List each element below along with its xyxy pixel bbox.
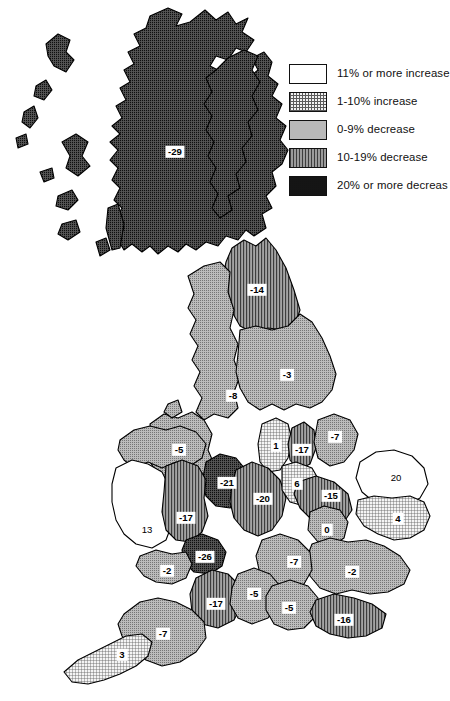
region-value-lincolnshire: -7 xyxy=(328,431,342,443)
region-value-north-east: -14 xyxy=(247,284,266,296)
legend-item[interactable]: 10-19% decrease xyxy=(289,146,450,169)
region-value-greater-mcr: -21 xyxy=(217,477,236,489)
legend-item[interactable]: 11% or more increase xyxy=(289,62,450,85)
region-yorkshire[interactable] xyxy=(236,314,336,410)
region-value-cornwall: 3 xyxy=(117,649,128,661)
legend-item[interactable]: 1-10% increase xyxy=(289,90,450,113)
region-value-powys: 13 xyxy=(142,525,153,535)
region-mid-wales[interactable] xyxy=(162,460,208,542)
region-cornwall[interactable] xyxy=(64,634,152,684)
region-value-west-midlands: -20 xyxy=(253,493,272,505)
region-outer-hebrides-south[interactable] xyxy=(22,106,38,128)
region-value-cumbria: -8 xyxy=(226,390,240,402)
region-value-merseyside: 1 xyxy=(271,440,282,452)
region-value-yorkshire: -3 xyxy=(280,369,294,381)
legend-swatch-white xyxy=(289,64,327,84)
region-value-cambridgeshire: 0 xyxy=(322,524,333,536)
region-value-wiltshire: -5 xyxy=(247,588,261,600)
legend-label: 11% or more increase xyxy=(337,68,450,79)
region-value-leicestershire: -15 xyxy=(321,490,340,502)
legend-swatch-fine-grid xyxy=(289,92,327,112)
map-legend: 11% or more increase1-10% increase0-9% d… xyxy=(289,62,450,202)
region-value-suffolk: 4 xyxy=(393,513,404,525)
region-islay[interactable] xyxy=(58,220,80,240)
legend-label: 1-10% increase xyxy=(337,96,418,107)
legend-item[interactable]: 0-9% decrease xyxy=(289,118,450,141)
region-value-norfolk: 20 xyxy=(391,473,402,483)
region-value-humberside: -17 xyxy=(292,444,311,456)
region-mull[interactable] xyxy=(56,190,78,210)
legend-label: 0-9% decrease xyxy=(337,124,415,135)
legend-label: 10-19% decrease xyxy=(337,152,428,163)
region-value-lancashire: -5 xyxy=(172,444,186,456)
map-figure: -29-14-3-8-5-211-17-7-206-1520413-17-26-… xyxy=(0,0,450,701)
legend-label: 20% or more decreas xyxy=(337,180,448,191)
legend-item[interactable]: 20% or more decreas xyxy=(289,174,450,197)
region-value-essex: -2 xyxy=(345,566,359,578)
region-island-b[interactable] xyxy=(40,168,54,182)
region-value-oxfordshire: -7 xyxy=(287,556,301,568)
region-value-scotland: -29 xyxy=(165,146,184,158)
region-outer-hebrides-mid[interactable] xyxy=(34,80,52,100)
legend-swatch-dark-stipple xyxy=(289,176,327,196)
region-island-a[interactable] xyxy=(16,134,28,148)
region-arran[interactable] xyxy=(96,238,110,256)
region-value-avon: -17 xyxy=(206,598,225,610)
legend-swatch-vertical-lines xyxy=(289,148,327,168)
region-value-devon: -7 xyxy=(156,628,170,640)
region-value-sussex: -16 xyxy=(334,614,353,626)
region-value-south-wales: -26 xyxy=(195,551,214,563)
region-scotland[interactable] xyxy=(110,8,288,254)
region-value-mid-wales: -17 xyxy=(176,512,195,524)
region-value-swansea: -2 xyxy=(160,565,174,577)
region-outer-hebrides-north[interactable] xyxy=(46,34,74,72)
region-value-hampshire: -5 xyxy=(282,602,296,614)
region-skye[interactable] xyxy=(62,134,90,176)
region-value-notts: 6 xyxy=(292,478,303,490)
legend-swatch-light-stipple xyxy=(289,120,327,140)
